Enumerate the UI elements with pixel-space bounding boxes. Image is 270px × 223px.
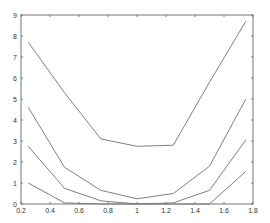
y-tick-label: 4 bbox=[13, 117, 17, 124]
series-3-line bbox=[28, 140, 246, 204]
x-tick-label: 1 bbox=[135, 207, 139, 214]
y-axis: 0123456789 bbox=[13, 12, 253, 208]
series-1-line bbox=[28, 21, 246, 146]
line-chart: 0.20.40.60.811.21.41.61.8 0123456789 bbox=[0, 0, 270, 223]
y-tick-label: 5 bbox=[13, 96, 17, 103]
plot-frame bbox=[21, 15, 253, 204]
y-tick-label: 1 bbox=[13, 180, 17, 187]
series-lines bbox=[28, 21, 246, 204]
x-tick-label: 1.4 bbox=[190, 207, 200, 214]
y-tick-label: 7 bbox=[13, 54, 17, 61]
y-tick-label: 0 bbox=[13, 201, 17, 208]
x-tick-label: 0.4 bbox=[45, 207, 55, 214]
x-tick-label: 1.2 bbox=[161, 207, 171, 214]
x-tick-label: 1.8 bbox=[248, 207, 258, 214]
x-tick-label: 0.8 bbox=[103, 207, 113, 214]
x-tick-label: 0.6 bbox=[74, 207, 84, 214]
x-tick-label: 1.6 bbox=[219, 207, 229, 214]
y-tick-label: 8 bbox=[13, 33, 17, 40]
x-tick-label: 0.2 bbox=[16, 207, 26, 214]
y-tick-label: 6 bbox=[13, 75, 17, 82]
x-axis: 0.20.40.60.811.21.41.61.8 bbox=[16, 15, 258, 214]
y-tick-label: 3 bbox=[13, 138, 17, 145]
y-tick-label: 9 bbox=[13, 12, 17, 19]
y-tick-label: 2 bbox=[13, 159, 17, 166]
